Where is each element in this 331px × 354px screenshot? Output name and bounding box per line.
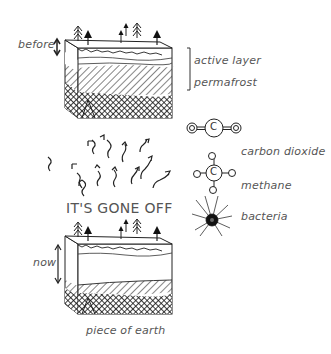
before-earth-block [65, 23, 174, 118]
piece-of-earth-caption: piece of earth [86, 324, 165, 337]
active-layer-label: active layer [194, 54, 261, 67]
carbon-dioxide-label: carbon dioxide [241, 145, 325, 158]
diagram-canvas [0, 0, 331, 354]
bacteria-label: bacteria [241, 210, 288, 223]
gone-off-caption: IT'S GONE OFF [66, 200, 173, 216]
co2-carbon-atom-label: C [210, 121, 217, 132]
gas-release-arrows-icon [48, 135, 170, 196]
before-label: before [18, 38, 55, 51]
permafrost-label: permafrost [194, 76, 257, 89]
methane-carbon-atom-label: C [210, 166, 217, 177]
now-earth-block [65, 219, 172, 314]
now-label: now [33, 256, 56, 269]
bacteria-icon [192, 196, 232, 236]
layer-bracket-icon [187, 48, 190, 90]
methane-label: methane [241, 179, 292, 192]
